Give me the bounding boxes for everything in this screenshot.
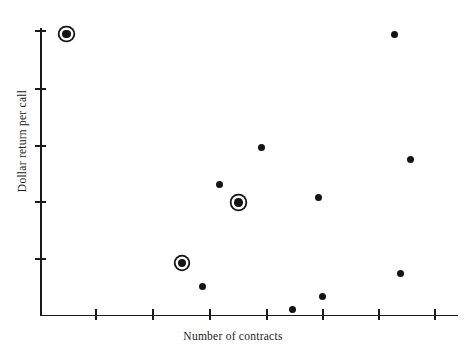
scatter-plot-figure: Number of contracts Dollar return per ca… — [0, 0, 466, 351]
x-axis-line — [40, 315, 458, 317]
data-point-p9 — [397, 270, 404, 277]
y-axis-tick-2 — [35, 145, 46, 147]
x-axis-tick-0 — [95, 309, 97, 320]
data-point-p2 — [391, 31, 398, 38]
x-axis-tick-5 — [378, 309, 380, 320]
data-point-p5 — [216, 181, 223, 188]
data-point-p12 — [289, 306, 296, 313]
y-axis-label: Dollar return per call — [16, 61, 28, 221]
data-point-p8 — [178, 259, 187, 268]
x-axis-tick-4 — [322, 309, 324, 320]
x-axis-tick-1 — [152, 309, 154, 320]
data-point-p10 — [199, 283, 206, 290]
data-point-p3 — [258, 144, 265, 151]
data-point-p7 — [234, 198, 243, 207]
y-axis-tick-0 — [35, 30, 46, 32]
x-axis-tick-3 — [266, 309, 268, 320]
x-axis-tick-6 — [434, 309, 436, 320]
y-axis-line — [40, 28, 42, 316]
x-axis-tick-2 — [209, 309, 211, 320]
y-axis-tick-4 — [35, 258, 46, 260]
x-axis-label: Number of contracts — [0, 330, 466, 342]
y-axis-tick-1 — [35, 88, 46, 90]
y-axis-tick-3 — [35, 201, 46, 203]
data-point-p4 — [407, 156, 414, 163]
data-point-p1 — [62, 30, 71, 39]
data-point-p11 — [319, 293, 326, 300]
data-point-p6 — [315, 194, 322, 201]
